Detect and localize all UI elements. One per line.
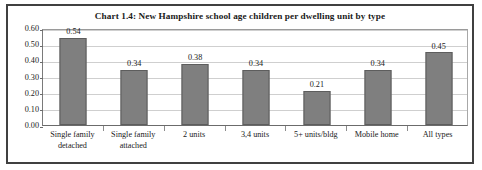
- bar-slot: 0.45: [408, 30, 469, 125]
- bar-slot: 0.34: [347, 30, 408, 125]
- x-axis-category-label: 2 units: [164, 130, 225, 141]
- y-axis-tick-label: 0.30: [9, 73, 39, 81]
- bar[interactable]: [364, 70, 391, 125]
- x-axis-category-label: Single familydetached: [42, 130, 103, 151]
- x-axis-category-label: All types: [407, 130, 468, 141]
- bar[interactable]: [242, 70, 269, 125]
- x-axis-category-label-line: All types: [407, 130, 468, 141]
- bar-slot: 0.34: [104, 30, 165, 125]
- bar-slot: 0.34: [226, 30, 287, 125]
- y-axis-tick-mark: [40, 127, 43, 128]
- x-axis-category-label-line: 2 units: [164, 130, 225, 141]
- bar[interactable]: [121, 70, 148, 125]
- x-axis-category-label-line: detached: [42, 141, 103, 152]
- y-axis-tick-label: 0.10: [9, 106, 39, 114]
- x-axis-category-label: 5+ units/bldg: [285, 130, 346, 141]
- x-axis-category-label: Single familyattached: [103, 130, 164, 151]
- y-axis-tick-label: 0.40: [9, 57, 39, 65]
- bar-value-label: 0.34: [371, 60, 385, 68]
- x-axis-category-label-line: attached: [103, 141, 164, 152]
- x-axis-category-label-line: 3,4 units: [225, 130, 286, 141]
- bar-slot: 0.38: [165, 30, 226, 125]
- bar-value-label: 0.34: [249, 60, 263, 68]
- plot-area: 0.540.340.380.340.210.340.45: [42, 29, 468, 126]
- x-axis-category-label: 3,4 units: [225, 130, 286, 141]
- bar-value-label: 0.21: [310, 81, 324, 89]
- chart-figure-frame: Chart 1.4: New Hampshire school age chil…: [6, 4, 474, 164]
- y-axis-tick-label: 0.50: [9, 41, 39, 49]
- x-axis-category-label-line: Single family: [103, 130, 164, 141]
- bar-value-label: 0.45: [431, 43, 445, 51]
- chart-title: Chart 1.4: New Hampshire school age chil…: [8, 11, 472, 21]
- bar[interactable]: [182, 64, 209, 125]
- bar-value-label: 0.34: [127, 60, 141, 68]
- bar-slot: 0.21: [286, 30, 347, 125]
- y-axis: 0.600.500.400.300.200.100.00: [8, 29, 39, 126]
- y-axis-tick-label: 0.00: [9, 122, 39, 130]
- bar[interactable]: [303, 91, 330, 125]
- x-axis-category-label-line: 5+ units/bldg: [285, 130, 346, 141]
- bar-slot: 0.54: [43, 30, 104, 125]
- x-axis-category-label-line: Single family: [42, 130, 103, 141]
- x-axis-category-label-line: Mobile home: [346, 130, 407, 141]
- bar[interactable]: [60, 38, 87, 125]
- y-axis-tick-label: 0.60: [9, 25, 39, 33]
- x-axis: Single familydetachedSingle familyattach…: [42, 130, 468, 158]
- bar-value-label: 0.54: [66, 28, 80, 36]
- x-axis-category-label: Mobile home: [346, 130, 407, 141]
- plot-region: 0.600.500.400.300.200.100.00 0.540.340.3…: [42, 25, 468, 126]
- bar[interactable]: [425, 52, 452, 125]
- bar-value-label: 0.38: [188, 54, 202, 62]
- y-axis-tick-label: 0.20: [9, 90, 39, 98]
